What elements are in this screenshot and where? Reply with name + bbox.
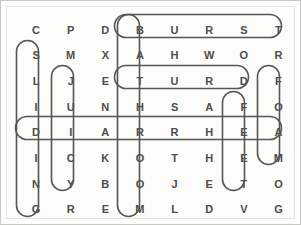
grid-cell[interactable]: W	[192, 43, 227, 69]
grid-cell[interactable]: B	[123, 17, 158, 43]
grid-cell[interactable]: I	[54, 120, 89, 146]
letter-grid: C P D B U R S T S M X A H W O R L J E T …	[19, 17, 296, 222]
grid-cell[interactable]: G	[19, 196, 54, 222]
grid-cell[interactable]: L	[158, 196, 193, 222]
grid-cell[interactable]: G	[261, 196, 296, 222]
grid-cell[interactable]: M	[261, 145, 296, 171]
grid-cell[interactable]: D	[192, 196, 227, 222]
grid-cell[interactable]: H	[158, 43, 193, 69]
grid-cell[interactable]: N	[88, 94, 123, 120]
grid-cell[interactable]: M	[54, 43, 89, 69]
grid-cell[interactable]: I	[19, 94, 54, 120]
grid-cell[interactable]: O	[261, 94, 296, 120]
grid-cell[interactable]: M	[123, 196, 158, 222]
grid-cell[interactable]: E	[227, 145, 262, 171]
grid-cell[interactable]: E	[227, 120, 262, 146]
grid-cell[interactable]: R	[123, 120, 158, 146]
grid-cell[interactable]: U	[54, 94, 89, 120]
puzzle-inner-border: C P D B U R S T S M X A H W O R L J E T …	[6, 6, 295, 219]
grid-cell[interactable]: V	[227, 196, 262, 222]
grid-cell[interactable]: H	[123, 94, 158, 120]
grid-cell[interactable]: T	[261, 17, 296, 43]
grid-cell[interactable]: B	[88, 171, 123, 197]
grid-cell[interactable]: F	[227, 94, 262, 120]
grid-cell[interactable]: T	[227, 171, 262, 197]
grid-cell[interactable]: O	[123, 171, 158, 197]
word-search-puzzle: C P D B U R S T S M X A H W O R L J E T …	[0, 0, 301, 225]
grid-cell[interactable]: I	[19, 145, 54, 171]
grid-cell[interactable]: U	[158, 68, 193, 94]
grid-cell[interactable]: A	[88, 120, 123, 146]
grid-cell[interactable]: K	[88, 145, 123, 171]
grid-cell[interactable]: T	[123, 68, 158, 94]
grid-cell[interactable]: F	[261, 68, 296, 94]
grid-cell[interactable]: X	[88, 43, 123, 69]
grid-cell[interactable]: U	[158, 17, 193, 43]
grid-cell[interactable]: D	[19, 120, 54, 146]
grid-cell[interactable]: J	[54, 68, 89, 94]
grid-cell[interactable]: C	[54, 145, 89, 171]
grid-cell[interactable]: A	[261, 120, 296, 146]
grid-cell[interactable]: R	[261, 43, 296, 69]
grid-cell[interactable]: R	[54, 196, 89, 222]
grid-cell[interactable]: D	[88, 17, 123, 43]
grid-cell[interactable]: O	[227, 43, 262, 69]
grid-cell[interactable]: R	[192, 17, 227, 43]
grid-cell[interactable]: H	[192, 145, 227, 171]
grid-cell[interactable]: E	[192, 171, 227, 197]
grid-cell[interactable]: E	[88, 196, 123, 222]
grid-cell[interactable]: P	[54, 17, 89, 43]
grid-cell[interactable]: R	[192, 68, 227, 94]
grid-cell[interactable]: J	[158, 171, 193, 197]
grid-cell[interactable]: S	[158, 94, 193, 120]
grid-cell[interactable]: S	[19, 43, 54, 69]
grid-cell[interactable]: T	[158, 145, 193, 171]
grid-cell[interactable]: E	[88, 68, 123, 94]
grid-cell[interactable]: A	[123, 43, 158, 69]
grid-cell[interactable]: S	[227, 17, 262, 43]
grid-cell[interactable]: H	[192, 120, 227, 146]
grid-cell[interactable]: C	[19, 17, 54, 43]
grid-cell[interactable]: Y	[54, 171, 89, 197]
grid-cell[interactable]: R	[158, 120, 193, 146]
grid-cell[interactable]: O	[261, 171, 296, 197]
grid-cell[interactable]: D	[227, 68, 262, 94]
grid-cell[interactable]: O	[123, 145, 158, 171]
grid-cell[interactable]: L	[19, 68, 54, 94]
grid-cell[interactable]: N	[19, 171, 54, 197]
grid-cell[interactable]: A	[192, 94, 227, 120]
